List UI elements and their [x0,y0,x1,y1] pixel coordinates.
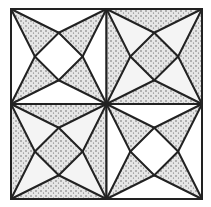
quilt-pattern-figure [0,0,211,207]
quadrant-bottom-right [107,104,203,199]
quadrant-bottom-left [11,104,107,199]
quadrant-top-right [107,9,203,104]
quadrant-top-left [11,9,107,104]
